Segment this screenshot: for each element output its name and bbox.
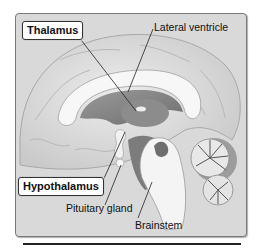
thalamus-shape	[121, 99, 169, 127]
pituitary-gland-label: Pituitary gland	[66, 202, 133, 214]
bottom-rule	[23, 243, 241, 245]
pituitary-shape	[116, 159, 124, 167]
thalamus-label: Thalamus	[22, 21, 83, 40]
brainstem-label: Brainstem	[135, 219, 182, 231]
hypothalamus-label: Hypothalamus	[18, 177, 104, 196]
lateral-ventricle-label: Lateral ventricle	[154, 21, 228, 33]
cerebellum-shape	[191, 138, 237, 205]
